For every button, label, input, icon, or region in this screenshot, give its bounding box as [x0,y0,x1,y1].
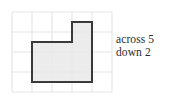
label-across: across 5 [116,33,169,46]
annotation-labels: across 5 down 2 [116,33,169,59]
grid-area [0,0,115,98]
label-down: down 2 [116,46,169,59]
figure-canvas: across 5 down 2 [0,0,169,98]
l-shape-polygon [32,22,92,82]
grid-svg [0,0,115,98]
